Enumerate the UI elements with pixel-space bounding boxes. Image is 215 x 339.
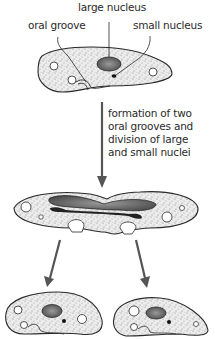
caption-line: formation of two (108, 107, 193, 120)
paramecium-fission-diagram (0, 0, 215, 339)
daughter-cell-left (6, 292, 103, 334)
caption: formation of two oral grooves and divisi… (108, 107, 193, 159)
small-nucleus (112, 74, 117, 78)
food-vacuole (68, 76, 76, 84)
oral-groove-right (120, 222, 136, 234)
oral-groove-left (68, 220, 84, 232)
daughter-cell-right (114, 298, 209, 336)
contractile-vacuole (50, 62, 58, 70)
caption-line: oral grooves and (108, 120, 193, 133)
arrow-left (44, 240, 60, 287)
caption-line: and small nuclei (108, 146, 193, 159)
arrow-down (97, 102, 107, 188)
label-small-nucleus: small nucleus (133, 19, 202, 31)
label-oral-groove: oral groove (28, 19, 86, 31)
parent-cell (38, 22, 172, 92)
contractile-vacuole (149, 68, 157, 76)
caption-line: division of large (108, 133, 193, 146)
large-nucleus (97, 57, 121, 71)
label-large-nucleus: large nucleus (78, 1, 146, 13)
arrow-right (136, 240, 150, 288)
dividing-cell (14, 192, 198, 234)
